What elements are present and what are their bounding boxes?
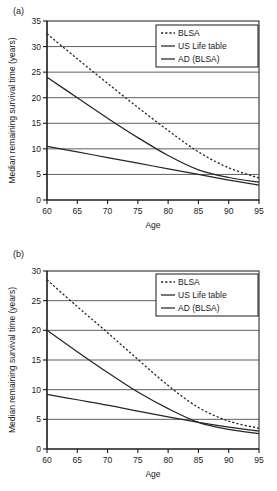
y-axis-tick-label: 25 (32, 296, 42, 306)
y-axis-tick-label: 30 (32, 266, 42, 276)
legend-label-blsa: BLSA (178, 28, 200, 38)
plot-area-b: 0510152025306065707580859095AgeMedian re… (0, 245, 277, 491)
y-axis-tick-label: 5 (36, 414, 41, 424)
y-axis-title: Median remaining survival time (years) (7, 287, 17, 433)
chart-panel-b: (b) 0510152025306065707580859095AgeMedia… (0, 245, 277, 491)
x-axis-tick-label: 70 (103, 206, 113, 216)
x-axis-tick-label: 60 (42, 206, 52, 216)
x-axis-tick-label: 65 (73, 455, 83, 465)
legend-label-ad-blsa: AD (BLSA) (178, 303, 220, 313)
y-axis-tick-label: 10 (32, 144, 42, 154)
series-line-us-life-table (47, 330, 259, 433)
legend-label-us-life-table: US Life table (178, 290, 227, 300)
x-axis-tick-label: 70 (103, 455, 113, 465)
x-axis-title: Age (145, 469, 160, 479)
chart-panel-a: (a) 051015202530356065707580859095AgeMed… (0, 0, 277, 245)
y-axis-title: Median remaining survival time (years) (7, 37, 17, 183)
y-axis-tick-label: 35 (32, 16, 42, 26)
y-axis-tick-label: 5 (36, 169, 41, 179)
x-axis-tick-label: 65 (73, 206, 83, 216)
plot-area-a: 051015202530356065707580859095AgeMedian … (0, 0, 277, 245)
series-line-ad-blsa (47, 394, 259, 431)
x-axis-tick-label: 75 (133, 206, 143, 216)
y-axis-tick-label: 25 (32, 67, 42, 77)
x-axis-tick-label: 60 (42, 455, 52, 465)
x-axis-title: Age (145, 220, 160, 230)
x-axis-tick-label: 95 (254, 206, 264, 216)
x-axis-tick-label: 75 (133, 455, 143, 465)
y-axis-tick-label: 30 (32, 42, 42, 52)
x-axis-tick-label: 95 (254, 455, 264, 465)
y-axis-tick-label: 20 (32, 93, 42, 103)
x-axis-tick-label: 80 (163, 206, 173, 216)
y-axis-tick-label: 0 (36, 195, 41, 205)
legend-label-ad-blsa: AD (BLSA) (178, 54, 220, 64)
x-axis-tick-label: 90 (224, 206, 234, 216)
x-axis-tick-label: 80 (163, 455, 173, 465)
x-axis-tick-label: 85 (194, 206, 204, 216)
figure-container: (a) 051015202530356065707580859095AgeMed… (0, 0, 277, 491)
series-line-ad-blsa (47, 146, 259, 185)
y-axis-tick-label: 15 (32, 355, 42, 365)
legend-label-blsa: BLSA (178, 277, 200, 287)
y-axis-tick-label: 20 (32, 325, 42, 335)
y-axis-tick-label: 0 (36, 444, 41, 454)
y-axis-tick-label: 10 (32, 385, 42, 395)
x-axis-tick-label: 85 (194, 455, 204, 465)
x-axis-tick-label: 90 (224, 455, 234, 465)
y-axis-tick-label: 15 (32, 118, 42, 128)
legend-label-us-life-table: US Life table (178, 41, 227, 51)
